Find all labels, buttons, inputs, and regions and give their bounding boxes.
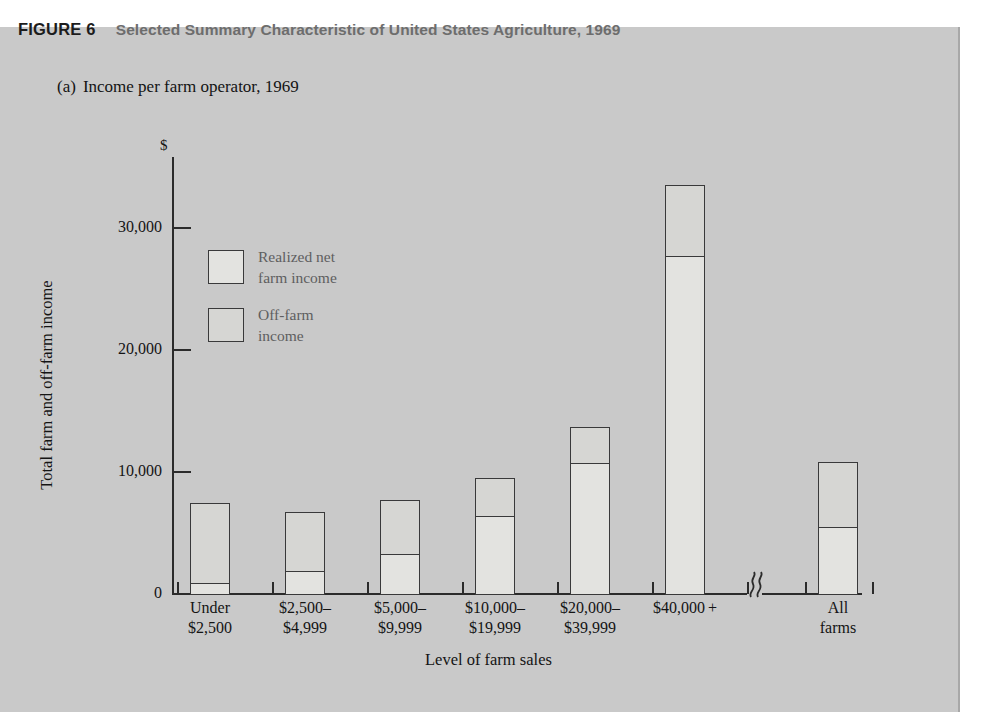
x-tick-8 [805, 582, 807, 594]
legend-label-line-2: income [258, 325, 314, 346]
x-category-label-6: $40,000 + [620, 598, 750, 618]
legend-label-line-1: Realized net [258, 248, 335, 265]
bar-segment-realized-net-farm-income [665, 256, 705, 595]
bar-3 [380, 500, 420, 594]
x-category-label-7: Allfarms [773, 598, 903, 638]
x-tick-6 [652, 582, 654, 594]
legend-swatch-off-farm-income [208, 308, 244, 342]
x-axis-line-left [172, 593, 747, 595]
y-tick-label-20000: 20,000 [72, 340, 162, 358]
y-tick-label-10000: 10,000 [72, 462, 162, 480]
bar-2 [285, 512, 325, 594]
legend-label-line-2: farm income [258, 267, 337, 288]
y-tick-20000 [174, 349, 191, 351]
x-category-label-line-1: $20,000– [560, 599, 620, 616]
bar-segment-realized-net-farm-income [285, 571, 325, 595]
x-tick-3 [367, 582, 369, 594]
bar-segment-realized-net-farm-income [570, 463, 610, 595]
x-tick-4 [462, 582, 464, 594]
bar-segment-realized-net-farm-income [818, 527, 858, 595]
x-axis-title: Level of farm sales [425, 650, 552, 670]
x-tick-9 [872, 582, 874, 594]
bar-segment-off-farm-income [570, 427, 610, 465]
x-tick-1 [177, 582, 179, 594]
x-category-label-line-1: $2,500– [279, 599, 331, 616]
legend-label-off-farm-income: Off-farm income [258, 304, 314, 346]
bar-4 [475, 478, 515, 594]
x-tick-2 [272, 582, 274, 594]
bar-segment-realized-net-farm-income [475, 516, 515, 595]
y-axis-line [172, 157, 174, 595]
chart-plot-area: $ Total farm and off-farm income 010,000… [0, 0, 984, 716]
y-tick-10000 [174, 471, 191, 473]
bar-segment-off-farm-income [190, 503, 230, 585]
bar-segment-off-farm-income [475, 478, 515, 517]
legend-label-line-1: Off-farm [258, 306, 314, 323]
bar-segment-realized-net-farm-income [190, 583, 230, 595]
x-category-label-line-2: farms [773, 618, 903, 638]
bar-segment-off-farm-income [665, 185, 705, 257]
x-category-label-line-1: All [828, 599, 848, 616]
x-category-label-line-1: $40,000 + [653, 599, 717, 616]
bar-segment-off-farm-income [818, 462, 858, 528]
x-tick-7 [747, 582, 749, 594]
y-axis-unit: $ [160, 137, 168, 154]
x-category-label-line-1: $10,000– [465, 599, 525, 616]
bar-5 [570, 427, 610, 594]
x-category-label-line-1: Under [190, 599, 230, 616]
bar-segment-off-farm-income [380, 500, 420, 555]
x-tick-5 [557, 582, 559, 594]
legend-label-realized-net-farm-income: Realized net farm income [258, 246, 337, 288]
y-tick-30000 [174, 227, 191, 229]
x-category-label-line-2: $39,999 [525, 618, 655, 638]
bar-7 [818, 462, 858, 594]
bar-1 [190, 503, 230, 595]
legend-swatch-realized-net-farm-income [208, 250, 244, 284]
bar-segment-realized-net-farm-income [380, 554, 420, 595]
x-category-label-line-1: $5,000– [374, 599, 426, 616]
bar-segment-off-farm-income [285, 512, 325, 572]
bar-6 [665, 185, 705, 594]
y-tick-label-30000: 30,000 [72, 218, 162, 236]
y-axis-title: Total farm and off-farm income [37, 235, 57, 535]
